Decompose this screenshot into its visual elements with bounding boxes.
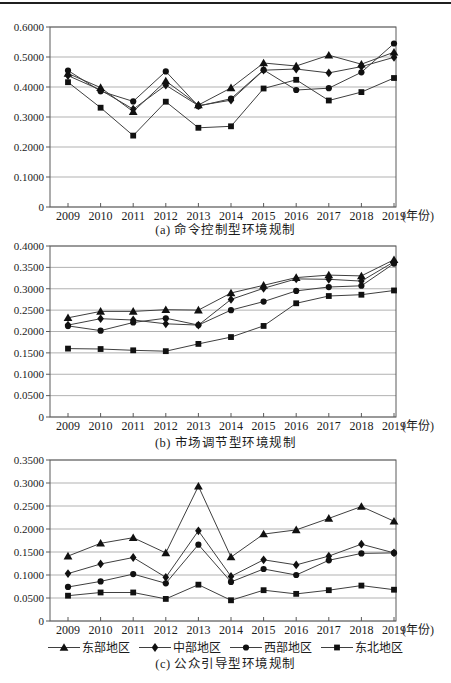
y-tick-label: 0.2000	[14, 325, 45, 337]
circle-marker-icon	[98, 88, 104, 94]
square-marker-icon	[359, 292, 365, 298]
square-marker-icon	[65, 346, 71, 352]
triangle-marker-icon	[324, 514, 333, 522]
y-tick-label: 0.0500	[14, 592, 45, 604]
series-central	[65, 53, 398, 114]
triangle-marker-icon	[259, 59, 268, 67]
square-marker-icon	[391, 587, 397, 593]
diamond-marker-icon	[228, 295, 235, 304]
chart-b-caption: (b) 市场调节型环境规制	[0, 436, 451, 453]
y-tick-label: 0.2000	[14, 523, 45, 535]
triangle-marker-icon	[129, 533, 138, 541]
x-axis: 2009201020112012201320142015201620172018…	[56, 617, 434, 637]
square-marker-icon	[391, 75, 397, 81]
x-tick-label: 2012	[154, 419, 178, 433]
y-tick-label: 0.1000	[14, 171, 45, 183]
square-marker-icon	[65, 79, 71, 85]
legend-item-east: 东部地区	[48, 638, 130, 656]
square-marker-icon	[293, 77, 299, 83]
diamond-marker-icon	[130, 553, 137, 562]
circle-marker-icon	[163, 315, 169, 321]
y-tick-label: 0.2500	[14, 500, 45, 512]
circle-marker-icon	[391, 260, 397, 266]
legend-label-northeast: 东北地区	[355, 638, 403, 656]
x-tick-label: 2012	[154, 623, 178, 637]
y-tick-label: 0	[39, 411, 45, 423]
y-tick-label: 0.6000	[14, 21, 45, 33]
circle-marker-icon	[326, 85, 332, 91]
legend-triangle-icon	[48, 642, 80, 653]
circle-marker-icon	[326, 284, 332, 290]
legend-item-west: 西部地区	[230, 638, 312, 656]
y-tick-label: 0	[39, 615, 45, 627]
y-tick-label: 0.2000	[14, 141, 45, 153]
y-tick-label: 0.1000	[14, 368, 45, 380]
x-tick-label: 2016	[284, 623, 308, 637]
circle-marker-icon	[98, 328, 104, 334]
circle-marker-icon	[261, 298, 267, 304]
x-tick-label: 2010	[89, 209, 113, 223]
x-tick-label: 2017	[317, 623, 341, 637]
square-marker-icon	[98, 105, 104, 111]
triangle-marker-icon	[161, 549, 170, 557]
x-tick-label: 2015	[252, 209, 276, 223]
diamond-marker-icon	[97, 314, 104, 323]
x-tick-label: 2012	[154, 209, 178, 223]
square-marker-icon	[359, 583, 365, 589]
y-tick-label: 0.3500	[14, 454, 45, 466]
circle-marker-icon	[195, 542, 201, 548]
circle-marker-icon	[293, 288, 299, 294]
square-marker-icon	[261, 86, 267, 92]
square-marker-icon	[391, 288, 397, 294]
square-marker-icon	[130, 347, 136, 353]
y-tick-label: 0	[39, 201, 45, 213]
legend-label-west: 西部地区	[264, 638, 312, 656]
square-marker-icon	[326, 293, 332, 299]
y-axis: 0.35000.30000.25000.20000.15000.10000.05…	[14, 454, 50, 627]
square-marker-icon	[196, 125, 202, 131]
circle-marker-icon	[261, 67, 267, 73]
x-tick-label: 2018	[349, 623, 373, 637]
x-tick-label: 2011	[121, 623, 145, 637]
chart-c-public-guidance: 0.35000.30000.25000.20000.15000.10000.05…	[0, 453, 451, 637]
circle-marker-icon	[228, 307, 234, 313]
circle-marker-icon	[228, 579, 234, 585]
x-tick-label: 2016	[284, 209, 308, 223]
circle-marker-icon	[261, 566, 267, 572]
x-tick-label: 2015	[252, 419, 276, 433]
square-marker-icon	[228, 123, 234, 129]
triangle-marker-icon	[292, 526, 301, 534]
x-tick-label: 2014	[219, 419, 243, 433]
x-axis-unit-label: (年份)	[402, 623, 434, 637]
x-tick-label: 2009	[56, 209, 80, 223]
x-axis: 2009201020112012201320142015201620172018…	[56, 413, 434, 433]
chart-a-caption: (a) 命令控制型环境规制	[0, 223, 451, 240]
legend-diamond-icon	[139, 642, 171, 653]
series-line-east	[68, 486, 394, 557]
circle-marker-icon	[358, 550, 364, 556]
y-tick-label: 0.0500	[14, 389, 45, 401]
x-tick-label: 2017	[317, 419, 341, 433]
x-axis: 2009201020112012201320142015201620172018…	[56, 203, 434, 223]
x-tick-label: 2018	[349, 209, 373, 223]
x-tick-label: 2010	[89, 623, 113, 637]
circle-marker-icon	[358, 283, 364, 289]
y-axis: 0.60000.50000.40000.30000.20000.10000	[14, 21, 50, 213]
circle-marker-icon	[98, 578, 104, 584]
circle-marker-icon	[163, 68, 169, 74]
circle-marker-icon	[130, 571, 136, 577]
series-west	[65, 542, 397, 591]
y-tick-label: 0.3000	[14, 477, 45, 489]
x-tick-label: 2016	[284, 419, 308, 433]
triangle-marker-icon	[161, 305, 170, 313]
square-marker-icon	[130, 133, 136, 139]
square-marker-icon	[98, 590, 104, 596]
square-marker-icon	[163, 99, 169, 105]
y-tick-label: 0.4000	[14, 81, 45, 93]
y-tick-label: 0.1500	[14, 546, 45, 558]
square-marker-icon	[359, 89, 365, 95]
diamond-marker-icon	[293, 560, 300, 569]
circle-marker-icon	[195, 103, 201, 109]
series-east	[64, 48, 399, 115]
square-marker-icon	[196, 341, 202, 347]
